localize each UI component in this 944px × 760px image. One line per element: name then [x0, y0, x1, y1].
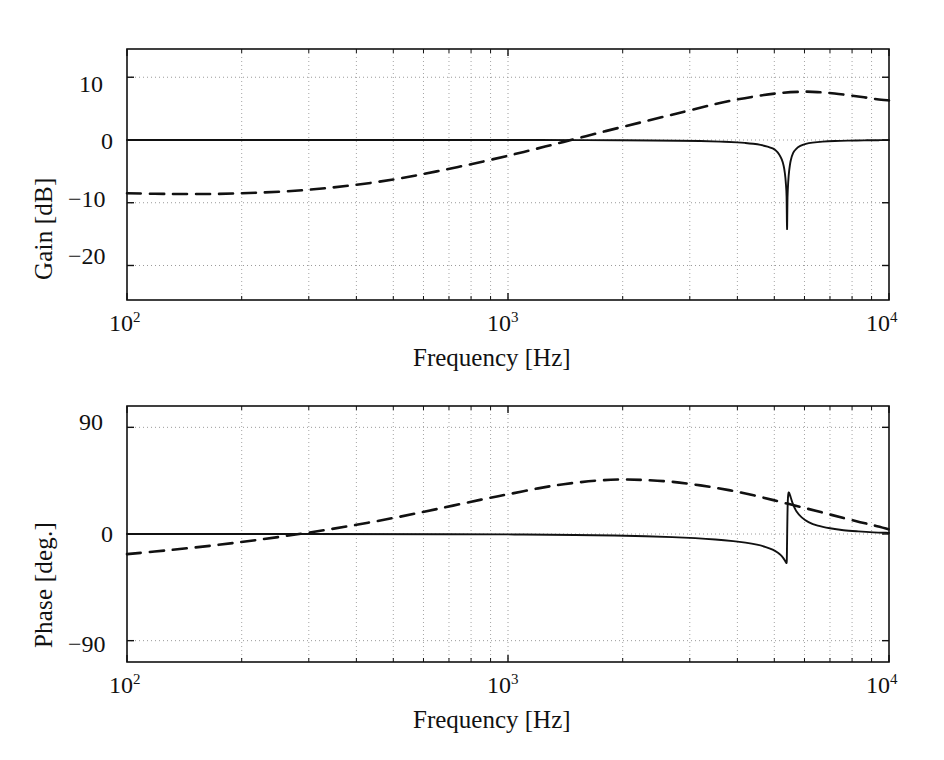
phase-xtick-1e3: 103: [487, 672, 519, 699]
gain-series-lead-compensator: [127, 92, 889, 194]
phase-ytick-0: 0: [101, 521, 113, 548]
gain-xtick-1e3: 103: [487, 310, 519, 337]
gain-ytick-neg20: −20: [68, 243, 106, 270]
phase-ytick-neg90: −90: [68, 631, 106, 658]
gain-ytick-neg10: −10: [68, 186, 106, 213]
gain-ytick-0: 0: [101, 128, 113, 155]
gain-xtick-1e3-exponent: 3: [511, 309, 519, 325]
phase-ytick-90: 90: [79, 409, 103, 436]
phase-x-axis-title: Frequency [Hz]: [413, 706, 571, 734]
phase-y-axis-title-text: Phase [deg.]: [30, 522, 57, 648]
phase-x-axis-title-text: Frequency [Hz]: [413, 706, 571, 733]
gain-xtick-1e2-exponent: 2: [133, 309, 141, 325]
bode-figure: Gain [dB] 10 0 −10 −20 102 103 104 Frequ…: [0, 0, 944, 760]
gain-y-axis-title: Gain [dB]: [30, 178, 58, 280]
gain-xtick-1e4-exponent: 4: [890, 309, 898, 325]
phase-xtick-1e4: 104: [866, 672, 898, 699]
gain-xtick-1e4: 104: [866, 310, 898, 337]
gain-panel-graphics: [127, 49, 889, 300]
plot-canvas: [0, 0, 944, 760]
phase-panel-graphics: [127, 406, 889, 662]
gain-y-axis-title-text: Gain [dB]: [30, 178, 57, 280]
phase-xtick-1e3-exponent: 3: [511, 671, 519, 687]
phase-xtick-1e4-exponent: 4: [890, 671, 898, 687]
gain-x-axis-title: Frequency [Hz]: [413, 344, 571, 372]
gain-ytick-10: 10: [79, 71, 103, 98]
phase-y-axis-title: Phase [deg.]: [30, 522, 58, 648]
phase-xtick-1e2: 102: [109, 672, 141, 699]
gain-xtick-1e2: 102: [109, 310, 141, 337]
phase-xtick-1e2-exponent: 2: [133, 671, 141, 687]
gain-x-axis-title-text: Frequency [Hz]: [413, 344, 571, 371]
